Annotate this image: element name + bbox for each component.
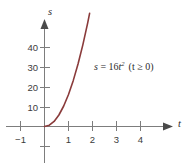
x-tick-label-2: 2 (82, 135, 103, 145)
equation-domain: (t ≥ 0) (125, 61, 154, 72)
y-axis-arrowhead (41, 19, 49, 29)
y-tick-label-30: 30 (20, 63, 38, 73)
x-tick-label-neg1: −1 (9, 135, 32, 145)
x-tick-label-4: 4 (130, 135, 151, 145)
x-axis-arrowhead (163, 123, 173, 131)
equation-coefficient: 16 (109, 61, 119, 72)
x-tick-label-3: 3 (106, 135, 127, 145)
y-tick-label-10: 10 (20, 103, 38, 113)
y-tick-label-20: 20 (20, 83, 38, 93)
y-tick-label-40: 40 (20, 43, 38, 53)
graph-figure: 40 30 20 10 −1 1 2 3 4 s t s = 16t2(t ≥ … (0, 0, 190, 168)
quadratic-curve (45, 13, 90, 126)
equation-equals: = (98, 61, 109, 72)
x-tick-label-1: 1 (58, 135, 79, 145)
x-axis-label-t: t (178, 119, 181, 130)
equation-annotation: s = 16t2(t ≥ 0) (94, 62, 154, 72)
y-axis-label-s: s (48, 7, 52, 18)
